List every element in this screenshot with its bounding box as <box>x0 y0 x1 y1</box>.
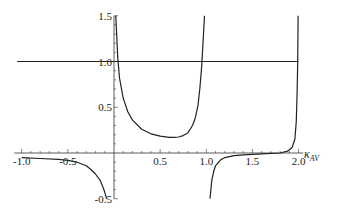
x-tick-label: -1.0 <box>13 155 31 167</box>
tick-labels: -1.0-0.50.51.01.52.0-0.50.51.01.5 <box>13 10 306 205</box>
x-tick-label: 0.5 <box>153 155 167 167</box>
y-tick-label: 1.5 <box>98 10 112 22</box>
y-tick-label: 0.5 <box>98 101 112 113</box>
chart: -1.0-0.50.51.01.52.0-0.50.51.01.5 κAV <box>0 0 338 216</box>
y-tick-label: -0.5 <box>95 193 113 205</box>
curve-branch <box>210 16 298 199</box>
x-tick-label: -0.5 <box>59 155 77 167</box>
x-tick-label: 1.0 <box>199 155 213 167</box>
x-axis-label: κAV <box>304 147 320 163</box>
curve-branch <box>116 16 205 138</box>
x-tick-label: 1.5 <box>246 155 260 167</box>
axis-ticks <box>22 16 299 199</box>
plot-curves <box>17 16 299 199</box>
axes <box>14 16 303 199</box>
